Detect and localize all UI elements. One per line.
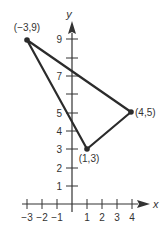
triangle <box>24 37 134 152</box>
x-tick-label: 2 <box>99 212 105 223</box>
vertex-label: (4,5) <box>135 107 156 118</box>
x-tick-label: −3 <box>21 212 33 223</box>
x-tick-label: −2 <box>36 212 48 223</box>
y-axis: y 1 2 3 4 5 7 9 <box>56 8 78 212</box>
coordinate-plane: x −3 −2 −1 1 2 3 4 y <box>0 0 166 237</box>
x-tick-label: 4 <box>129 212 135 223</box>
y-tick-labels: 1 2 3 4 5 7 9 <box>56 34 62 192</box>
y-tick-label: 3 <box>56 144 62 155</box>
vertex-point <box>128 109 134 115</box>
x-tick-label: 3 <box>114 212 120 223</box>
y-axis-label: y <box>65 8 73 20</box>
vertex-label: (−3,9) <box>14 22 40 33</box>
y-tick-label: 9 <box>56 34 62 45</box>
vertex-point <box>24 37 30 43</box>
x-tick-labels: −3 −2 −1 1 2 3 4 <box>21 212 135 223</box>
x-axis-arrow-icon <box>137 200 150 208</box>
x-axis-label: x <box>152 198 159 210</box>
x-tick-label: −1 <box>51 212 63 223</box>
vertex-label: (1,3) <box>79 153 100 164</box>
y-tick-label: 7 <box>56 71 62 82</box>
x-axis: x −3 −2 −1 1 2 3 4 <box>21 198 159 223</box>
y-tick-label: 2 <box>56 163 62 174</box>
y-tick-label: 1 <box>56 181 62 192</box>
vertex-point <box>84 146 90 152</box>
y-axis-arrow-icon <box>68 21 76 34</box>
y-tick-label: 5 <box>56 108 62 119</box>
x-tick-label: 1 <box>84 212 90 223</box>
y-tick-label: 4 <box>56 126 62 137</box>
